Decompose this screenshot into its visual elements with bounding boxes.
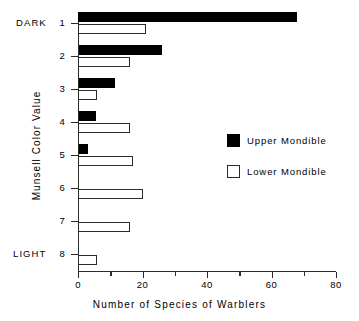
bar-upper-mondible-4 xyxy=(78,111,96,121)
y-axis-light-label: LIGHT xyxy=(13,249,46,259)
hollow-square-icon xyxy=(227,165,240,178)
x-tick-minor-50 xyxy=(239,272,240,276)
x-tick-label-80: 80 xyxy=(324,280,348,290)
bar-lower-mondible-7 xyxy=(78,222,130,232)
bar-lower-mondible-3 xyxy=(78,90,97,100)
x-tick-minor-70 xyxy=(304,272,305,276)
y-axis-dark-label: DARK xyxy=(16,18,47,28)
x-tick-minor-30 xyxy=(175,272,176,276)
x-tick-20 xyxy=(143,272,144,278)
x-tick-label-20: 20 xyxy=(131,280,155,290)
y-axis-line xyxy=(78,22,79,272)
y-tick-label-8: 8 xyxy=(51,249,65,259)
y-tick-label-5: 5 xyxy=(51,150,65,160)
bar-lower-mondible-5 xyxy=(78,156,133,166)
x-tick-label-60: 60 xyxy=(260,280,284,290)
bar-upper-mondible-3 xyxy=(78,78,115,88)
bar-upper-mondible-2 xyxy=(78,45,162,55)
filled-square-icon xyxy=(227,134,240,147)
y-tick-label-2: 2 xyxy=(51,51,65,61)
warbler-munsell-bar-chart: 12345678 DARK LIGHT 020406080 Munsell Co… xyxy=(0,0,359,321)
x-tick-minor-10 xyxy=(110,272,111,276)
y-tick-3 xyxy=(71,89,78,90)
y-tick-6 xyxy=(71,188,78,189)
y-tick-1 xyxy=(71,23,78,24)
x-axis-title: Number of Species of Warblers xyxy=(0,299,359,310)
y-tick-8 xyxy=(71,254,78,255)
bar-lower-mondible-2 xyxy=(78,57,130,67)
x-tick-80 xyxy=(336,272,337,278)
x-tick-40 xyxy=(207,272,208,278)
y-tick-label-1: 1 xyxy=(51,18,65,28)
bar-lower-mondible-6 xyxy=(78,189,143,199)
bar-upper-mondible-5 xyxy=(78,144,88,154)
y-tick-label-3: 3 xyxy=(51,84,65,94)
y-tick-4 xyxy=(71,122,78,123)
y-axis-title: Munsell Color Value xyxy=(31,46,42,246)
y-tick-7 xyxy=(71,221,78,222)
bar-lower-mondible-1 xyxy=(78,24,146,34)
x-tick-60 xyxy=(272,272,273,278)
y-tick-label-7: 7 xyxy=(51,216,65,226)
x-tick-label-40: 40 xyxy=(195,280,219,290)
y-tick-2 xyxy=(71,56,78,57)
bar-lower-mondible-4 xyxy=(78,123,130,133)
bar-upper-mondible-1 xyxy=(78,12,297,22)
legend-label: Upper Mondible xyxy=(247,136,327,146)
legend-label: Lower Mondible xyxy=(247,167,327,177)
y-tick-5 xyxy=(71,155,78,156)
y-tick-label-4: 4 xyxy=(51,117,65,127)
x-tick-0 xyxy=(78,272,79,278)
bar-lower-mondible-8 xyxy=(78,255,97,265)
x-tick-label-0: 0 xyxy=(66,280,90,290)
y-tick-label-6: 6 xyxy=(51,183,65,193)
